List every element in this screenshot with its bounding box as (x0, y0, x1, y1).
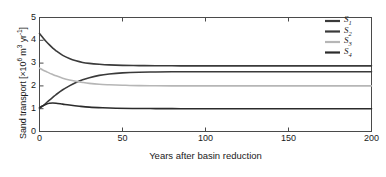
plot-frame (40, 18, 372, 132)
x-tick-label: 150 (274, 133, 304, 143)
y-tick-label: 2 (22, 80, 36, 90)
y-tick-label: 5 (22, 12, 36, 22)
y-tick-label: 4 (22, 34, 36, 44)
x-tick-label: 50 (108, 133, 138, 143)
legend-label-s4: S4 (344, 46, 352, 58)
x-tick-label: 100 (191, 133, 221, 143)
x-tick-label: 200 (357, 133, 386, 143)
y-tick-label: 0 (22, 126, 36, 136)
figure-sand-transport: Sand transport [×106 m3 yr-1] Years afte… (0, 0, 386, 177)
y-tick-label: 3 (22, 57, 36, 67)
y-tick-label: 1 (22, 103, 36, 113)
x-axis-label: Years after basin reduction (39, 150, 372, 161)
axes-frame (40, 18, 372, 132)
